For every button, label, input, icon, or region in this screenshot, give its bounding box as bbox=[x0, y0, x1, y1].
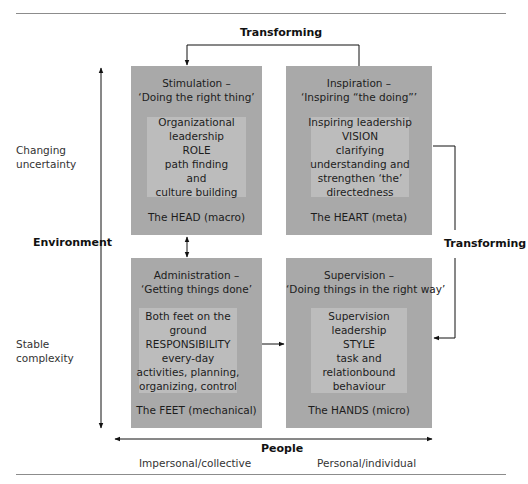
quadrant-hands: Supervision – ‘Doing things in the right… bbox=[286, 258, 432, 428]
quadrant-head: Stimulation – ‘Doing the right thing’ Or… bbox=[131, 66, 262, 235]
top-transforming-label: Transforming bbox=[240, 26, 322, 39]
changing-uncertainty-label: Changing uncertainty bbox=[16, 143, 76, 171]
quadrant-title: Administration – ‘Getting things done’ bbox=[131, 268, 262, 296]
personal-individual-label: Personal/individual bbox=[317, 456, 416, 470]
quadrant-footer: The FEET (mechanical) bbox=[131, 404, 262, 416]
quadrant-inner-box: Supervision leadership STYLE task and re… bbox=[311, 308, 407, 393]
top-transforming-arrow bbox=[187, 45, 359, 66]
quadrant-footer: The HEAD (macro) bbox=[131, 211, 262, 223]
right-transforming-label: Transforming bbox=[444, 237, 526, 250]
right-transforming-line-upper bbox=[433, 146, 455, 230]
right-transforming-arrow bbox=[434, 258, 455, 338]
quadrant-title: Inspiration – ‘Inspiring “the doing”’ bbox=[286, 76, 432, 104]
stable-complexity-label: Stable complexity bbox=[16, 337, 74, 365]
quadrant-heart: Inspiration – ‘Inspiring “the doing”’ In… bbox=[286, 66, 432, 235]
environment-label: Environment bbox=[33, 236, 112, 249]
quadrant-inner-box: Inspiring leadership VISION clarifying u… bbox=[311, 117, 409, 197]
quadrant-title: Stimulation – ‘Doing the right thing’ bbox=[131, 76, 262, 104]
people-label: People bbox=[261, 442, 303, 455]
quadrant-footer: The HANDS (micro) bbox=[286, 404, 432, 416]
quadrant-inner-box: Organizational leadership ROLE path find… bbox=[147, 117, 246, 197]
quadrant-feet: Administration – ‘Getting things done’ B… bbox=[131, 258, 262, 428]
impersonal-collective-label: Impersonal/collective bbox=[139, 456, 251, 470]
quadrant-footer: The HEART (meta) bbox=[286, 211, 432, 223]
quadrant-inner-box: Both feet on the ground RESPONSIBILITY e… bbox=[139, 308, 237, 393]
quadrant-title: Supervision – ‘Doing things in the right… bbox=[286, 268, 432, 296]
